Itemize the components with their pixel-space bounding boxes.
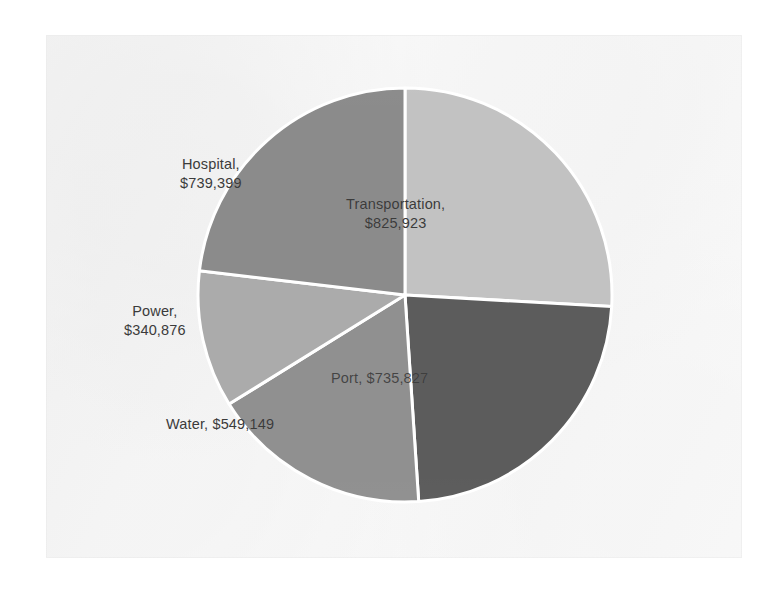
pie-chart-svg	[46, 35, 742, 558]
pie-slice-transportation[interactable]	[405, 88, 612, 307]
pie-chart-plot-area: Transportation, $825,923 Port, $735,827 …	[46, 35, 742, 558]
screenshot-root: Transportation, $825,923 Port, $735,827 …	[0, 0, 782, 590]
pie-slice-port[interactable]	[405, 295, 612, 502]
pie-slice-group	[198, 88, 612, 502]
pie-slice-hospital[interactable]	[199, 88, 405, 295]
